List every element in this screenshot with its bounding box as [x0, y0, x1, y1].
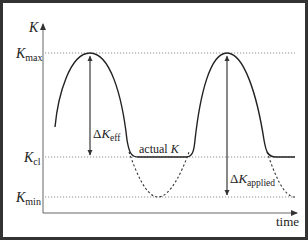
delta-k-applied-label: ΔKapplied	[230, 171, 275, 188]
k-cl-label: Kcl	[23, 150, 41, 167]
y-axis-label: K	[28, 20, 39, 35]
k-min-label: Kmin	[15, 190, 41, 207]
applied-k-trough-1	[129, 152, 189, 197]
diagram-frame: K time Kmax Kcl Kmin ΔKeff ΔKapplied act…	[0, 0, 308, 240]
x-axis-label: time	[276, 214, 299, 229]
delta-k-eff-label: ΔKeff	[93, 126, 121, 143]
k-max-label: Kmax	[15, 46, 43, 63]
actual-k-label: actual K	[139, 142, 180, 156]
stress-intensity-diagram: K time Kmax Kcl Kmin ΔKeff ΔKapplied act…	[0, 0, 308, 240]
applied-k-trough-2	[267, 152, 295, 197]
